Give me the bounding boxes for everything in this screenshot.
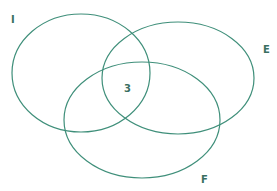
set-ellipse-e [102,22,254,134]
venn-canvas: I E F 3 [0,0,277,191]
set-ellipse-i [12,14,150,132]
set-label-i: I [11,14,15,25]
set-label-e: E [263,44,270,55]
set-ellipse-f [64,62,220,178]
region-value-intersection-all: 3 [124,83,131,94]
set-label-f: F [201,174,208,185]
